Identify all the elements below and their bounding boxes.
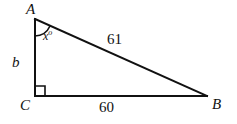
side-label-horizontal-leg: 60 xyxy=(99,100,114,115)
side-label-hypotenuse: 61 xyxy=(107,32,122,47)
geometry-figure: A C B b 61 60 xo xyxy=(0,0,237,124)
vertex-label-c: C xyxy=(20,98,30,113)
degree-symbol: o xyxy=(48,28,52,37)
vertex-label-a: A xyxy=(26,2,35,17)
triangle-drawing xyxy=(0,0,237,124)
side-label-vertical-leg: b xyxy=(12,55,20,70)
right-angle-square-icon xyxy=(35,86,45,96)
vertex-label-b: B xyxy=(212,97,221,112)
angle-label-at-a: xo xyxy=(43,29,52,42)
